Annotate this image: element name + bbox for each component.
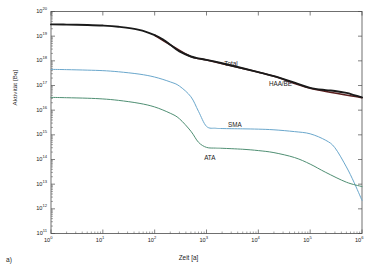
y-tick-label: 1013 bbox=[30, 181, 47, 187]
y-tick-label: 1016 bbox=[30, 107, 47, 113]
curve-label-haa-be: HAA/BE bbox=[269, 80, 292, 87]
y-tick-label: 1014 bbox=[30, 156, 47, 162]
x-tick-label: 106 bbox=[355, 237, 364, 243]
figure-panel: Aktivität [Bq] Zeit [a] a) 1001011021031… bbox=[0, 0, 377, 273]
y-tick-label: 1015 bbox=[30, 131, 47, 137]
y-tick-label: 1011 bbox=[30, 230, 47, 236]
curve-label-total: Total bbox=[224, 60, 237, 67]
curve-label-ata: ATA bbox=[204, 154, 215, 161]
x-tick-label: 101 bbox=[96, 237, 105, 243]
y-axis-title: Aktivität [Bq] bbox=[11, 48, 18, 128]
activity-decay-chart bbox=[0, 0, 377, 273]
x-tick-label: 102 bbox=[148, 237, 157, 243]
curve-label-sma: SMA bbox=[228, 121, 242, 128]
y-tick-label: 1017 bbox=[30, 82, 47, 88]
x-axis-title: Zeit [a] bbox=[0, 254, 377, 261]
series-line-ata bbox=[51, 97, 362, 186]
panel-tag: a) bbox=[6, 256, 12, 263]
y-tick-label: 1012 bbox=[30, 205, 47, 211]
series-line-total bbox=[51, 24, 362, 97]
y-tick-label: 1018 bbox=[30, 57, 47, 63]
x-tick-label: 105 bbox=[303, 237, 312, 243]
x-tick-label: 100 bbox=[44, 237, 53, 243]
y-tick-label: 1019 bbox=[30, 33, 47, 39]
series-line-haa-be bbox=[155, 35, 362, 97]
x-tick-label: 104 bbox=[251, 237, 260, 243]
y-tick-label: 1020 bbox=[30, 8, 47, 14]
x-tick-label: 103 bbox=[200, 237, 209, 243]
